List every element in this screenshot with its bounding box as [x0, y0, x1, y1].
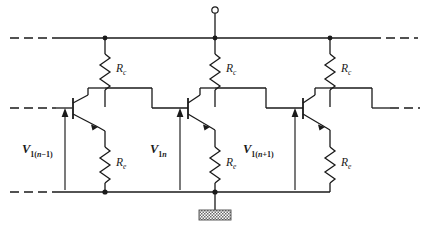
transistor-n-minus-1	[73, 88, 152, 147]
voltage-label-n-plus-1: V1(n+1)	[243, 143, 274, 159]
collector-resistor-3-label: Rc	[341, 63, 351, 77]
collector-resistor-2-label: Rc	[226, 63, 236, 77]
emitter-resistor-1-label: Re	[116, 157, 126, 171]
voltage-label-n-minus-1: V1(n−1)	[22, 143, 53, 159]
collector-resistor-1	[100, 38, 110, 107]
ground-plate	[199, 210, 231, 220]
emitter-resistor-2	[210, 147, 220, 192]
emitter-resistor-2-label: Re	[226, 157, 236, 171]
supply-terminal	[212, 7, 218, 38]
collector-resistor-2	[210, 38, 220, 107]
circuit-schematic-svg	[0, 0, 430, 232]
emitter-resistor-1	[100, 147, 110, 192]
transistor-n-plus-1	[303, 88, 372, 147]
collector-resistor-3	[325, 38, 335, 107]
emitter-resistor-3-label: Re	[341, 157, 351, 171]
voltage-label-n: V1n	[150, 143, 167, 159]
collector-resistor-1-label: Rc	[116, 63, 126, 77]
emitter-resistor-3	[325, 147, 335, 192]
transistor-n	[188, 88, 266, 147]
circuit-diagram: Rc Rc Rc Re Re Re V1(n−1) V1n V1(n+1)	[0, 0, 430, 232]
